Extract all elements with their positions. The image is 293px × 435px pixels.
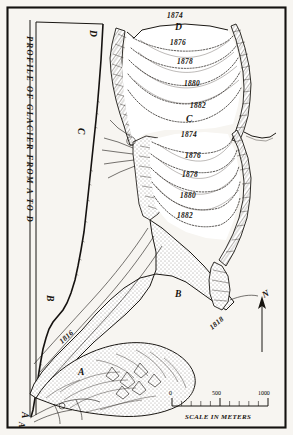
profile-caption: PROFILE OF GLACIER FROM A TO D [25, 36, 34, 223]
lower-year-label-1880: 1880 [180, 191, 196, 200]
lower-year-label-1874: 1874 [181, 130, 197, 139]
map-label-c: C [186, 113, 193, 124]
profile-label-b: B [45, 294, 56, 302]
profile-label-a: A [20, 411, 31, 418]
glacier-map-figure: D C B A PROFILE OF GLACIER FROM A TO D [0, 0, 293, 435]
map-label-a: A [77, 366, 84, 377]
year-label-1874: 1874 [167, 11, 183, 20]
scale-tick-500: 500 [212, 390, 221, 396]
scale-tick-0: 0 [169, 390, 172, 396]
profile-label-c: C [76, 128, 87, 135]
year-label-1876: 1876 [170, 38, 186, 47]
lower-year-label-1882: 1882 [177, 211, 193, 220]
lower-year-label-1878: 1878 [182, 170, 198, 179]
map-label-d: D [174, 21, 182, 32]
map-label-a-outer: A [17, 421, 26, 428]
scale-tick-1000: 1000 [258, 390, 270, 396]
lower-year-label-1876: 1876 [185, 151, 201, 160]
map-label-b: B [174, 288, 182, 299]
profile-label-d: D [88, 29, 99, 37]
scale-bar-caption: SCALE IN METERS [185, 413, 251, 420]
year-label-1882: 1882 [190, 101, 206, 110]
year-label-1878: 1878 [177, 57, 193, 66]
year-label-1880: 1880 [184, 79, 200, 88]
